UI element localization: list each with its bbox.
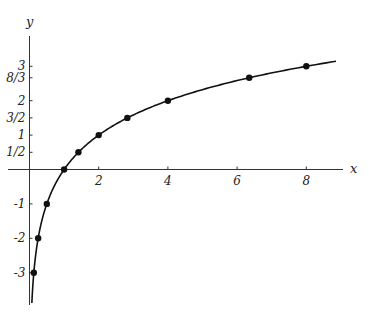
data-point	[124, 115, 130, 121]
data-point	[303, 63, 309, 69]
y-tick-label: 1/2	[6, 145, 25, 159]
y-axis-label: y	[25, 14, 34, 29]
y-tick-label: 3/2	[6, 111, 25, 125]
x-tick-label: 4	[163, 174, 172, 188]
x-tick-label: 6	[233, 174, 241, 188]
y-tick-label: -2	[14, 231, 26, 245]
x-tick-label: 8	[302, 174, 310, 188]
data-point	[96, 132, 102, 138]
y-tick-label: -3	[14, 266, 26, 280]
curve	[32, 61, 336, 303]
data-point	[246, 75, 252, 81]
y-tick-label: 8/3	[6, 71, 26, 85]
data-point	[165, 98, 171, 104]
y-tick-label: -1	[14, 197, 26, 211]
y-tick-label: 1	[18, 128, 26, 142]
data-point	[31, 270, 37, 276]
data-point	[75, 149, 81, 155]
log-curve-chart: 246838/323/211/2-1-2-3 x y	[0, 0, 369, 315]
x-tick-label: 2	[94, 174, 103, 188]
axes	[8, 36, 343, 305]
data-point	[35, 235, 41, 241]
data-point	[61, 166, 67, 172]
y-tick-label: 2	[17, 94, 26, 108]
x-axis-label: x	[350, 161, 358, 176]
data-point	[44, 201, 50, 207]
